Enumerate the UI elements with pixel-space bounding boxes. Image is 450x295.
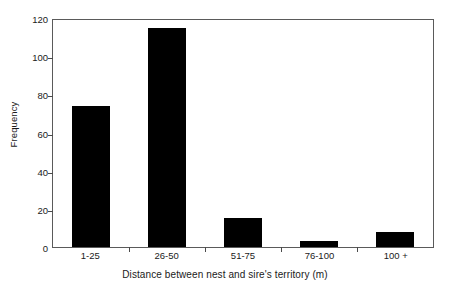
y-axis-tick-label: 60 bbox=[14, 128, 48, 139]
y-axis-tick-mark bbox=[48, 173, 53, 174]
y-axis-tick-label: 0 bbox=[14, 243, 48, 254]
bar bbox=[72, 106, 110, 247]
x-axis-title-text: Distance between nest and sire's territo… bbox=[122, 269, 327, 280]
x-axis-title: Distance between nest and sire's territo… bbox=[0, 269, 450, 280]
x-axis-tick-label: 26-50 bbox=[128, 250, 204, 261]
bar bbox=[300, 241, 338, 247]
bar-slot bbox=[281, 20, 357, 247]
y-axis-tick-label: 100 bbox=[14, 52, 48, 63]
bar-chart: Frequency 020406080100120 1-2526-5051-75… bbox=[0, 0, 450, 295]
bar-slot bbox=[53, 20, 129, 247]
plot-area bbox=[52, 19, 434, 248]
bar bbox=[224, 218, 262, 247]
y-axis-tick-label: 20 bbox=[14, 204, 48, 215]
y-axis-tick-mark bbox=[48, 58, 53, 59]
bar-slot bbox=[357, 20, 433, 247]
y-axis-tick-label: 120 bbox=[14, 14, 48, 25]
x-axis-tick-label: 51-75 bbox=[205, 250, 281, 261]
x-axis-tick-label: 76-100 bbox=[281, 250, 357, 261]
bar-series bbox=[53, 20, 433, 247]
x-axis-tick-label: 1-25 bbox=[52, 250, 128, 261]
bar-slot bbox=[205, 20, 281, 247]
y-axis-tick-mark bbox=[48, 211, 53, 212]
bar-slot bbox=[129, 20, 205, 247]
bar bbox=[376, 232, 414, 247]
bar bbox=[148, 28, 186, 247]
y-axis-tick-mark bbox=[48, 96, 53, 97]
y-axis-tick-mark bbox=[48, 135, 53, 136]
y-axis-tick-labels: 020406080100120 bbox=[10, 0, 48, 295]
y-axis-tick-label: 80 bbox=[14, 90, 48, 101]
x-axis-tick-labels: 1-2526-5051-7576-100100 + bbox=[52, 250, 434, 261]
x-axis-tick-label: 100 + bbox=[358, 250, 434, 261]
y-axis-tick-label: 40 bbox=[14, 166, 48, 177]
